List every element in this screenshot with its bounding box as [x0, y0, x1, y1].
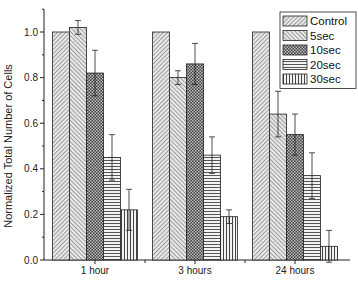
x-tick-label: 3 hours	[178, 265, 211, 276]
legend-swatch	[283, 16, 307, 26]
bar	[70, 27, 87, 260]
y-tick-label: 0.6	[24, 118, 38, 129]
legend-label: 5sec	[310, 30, 335, 42]
legend-swatch	[283, 74, 307, 84]
bar	[253, 32, 270, 260]
bar-chart: Normalized Total Number of Cells 0.00.20…	[0, 0, 358, 284]
y-tick-label: 0.0	[24, 255, 38, 266]
legend-swatch	[283, 45, 307, 55]
legend-label: 10sec	[310, 44, 341, 56]
legend-swatch	[283, 31, 307, 41]
bar	[187, 64, 204, 260]
legend-label: 30sec	[310, 73, 341, 85]
y-tick-label: 0.2	[24, 209, 38, 220]
legend-label: 20sec	[310, 59, 341, 71]
bar	[87, 73, 104, 260]
y-tick-label: 0.4	[24, 163, 38, 174]
bar	[53, 32, 70, 260]
x-tick-label: 1 hour	[81, 265, 110, 276]
legend-swatch	[283, 60, 307, 70]
y-tick-label: 0.8	[24, 72, 38, 83]
bar	[153, 32, 170, 260]
y-axis-title: Normalized Total Number of Cells	[2, 64, 14, 228]
legend: Control5sec10sec20sec30sec	[280, 12, 356, 89]
legend-label: Control	[310, 15, 347, 27]
x-axis: 1 hour3 hours24 hours	[44, 260, 350, 276]
x-tick-label: 24 hours	[276, 265, 315, 276]
y-tick-label: 1.0	[24, 27, 38, 38]
y-axis: 0.00.20.40.60.81.0	[24, 9, 44, 265]
bar	[170, 78, 187, 260]
